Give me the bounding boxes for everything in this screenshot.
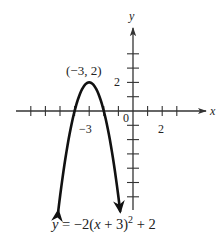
- equation-mid: + 3): [101, 216, 129, 233]
- origin-label: 0: [123, 111, 129, 125]
- parabola-curve: [58, 82, 120, 211]
- x-axis-label: x: [209, 104, 216, 118]
- x-tick-label-neg3: −3: [79, 122, 92, 136]
- parabola-graph: x y 0 −3 2 2 (−3, 2) y = −2(x + 3)2 + 2: [0, 0, 220, 236]
- vertex-annotation: (−3, 2): [66, 63, 102, 78]
- y-tick-label-2: 2: [114, 75, 120, 89]
- x-tick-label-2: 2: [158, 122, 164, 136]
- y-axis-label: y: [128, 9, 135, 23]
- equation-tail: + 2: [133, 216, 156, 232]
- equation-label: y = −2(x + 3)2 + 2: [50, 214, 156, 233]
- equation-eq: = −2(: [58, 216, 94, 233]
